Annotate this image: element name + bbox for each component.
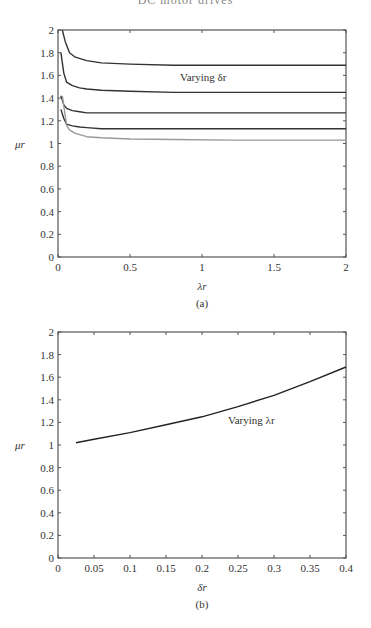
y-tick-label: 1.4 [40,92,54,104]
y-tick-label: 2 [49,326,55,338]
y-tick-label: 0.8 [40,160,54,172]
x-tick-label: 0 [55,562,61,574]
y-tick-label: 1.6 [40,371,54,383]
x-tick-label: 1.5 [267,261,281,273]
chart-b: 00.050.10.150.20.250.30.350.400.20.40.60… [0,302,371,616]
figure-caption: (b) [196,598,209,611]
y-tick-label: 1 [49,439,55,451]
y-tick-label: 0.2 [40,529,54,541]
x-tick-label: 2 [343,261,349,273]
series-line-curve-1 [62,30,346,65]
y-tick-label: 0.6 [40,484,54,496]
x-tick-label: 0.25 [228,562,248,574]
series-line-curve-5 [62,96,346,140]
x-tick-label: 0.05 [84,562,104,574]
series-line-curve-3 [61,96,346,113]
y-tick-label: 0 [49,552,55,564]
y-tick-label: 1.6 [40,69,54,81]
x-axis-label: δr [197,581,207,593]
x-tick-label: 0.2 [195,562,209,574]
x-tick-label: 0.1 [123,562,137,574]
series-line-mu-vs-delta [76,367,346,443]
plot-frame [58,332,346,558]
y-tick-label: 0.2 [40,228,54,240]
y-axis-label: μr [14,439,26,451]
x-tick-label: 0.5 [123,261,137,273]
curve-annotation: Varying λr [228,414,275,426]
y-axis-label: μr [14,138,26,150]
plot-frame [58,30,346,257]
curve-annotation: Varying δr [180,71,227,83]
y-tick-label: 1.8 [40,47,54,59]
y-tick-label: 0.4 [40,507,54,519]
x-tick-label: 0.3 [267,562,281,574]
y-tick-label: 0 [49,251,55,263]
y-tick-label: 1 [49,138,55,150]
y-tick-label: 1.8 [40,349,54,361]
x-tick-label: 0.15 [156,562,176,574]
x-tick-label: 0 [55,261,61,273]
y-tick-label: 0.6 [40,183,54,195]
x-tick-label: 0.35 [300,562,320,574]
y-tick-label: 0.4 [40,206,54,218]
x-tick-label: 1 [199,261,205,273]
y-tick-label: 0.8 [40,462,54,474]
x-axis-label: λr [196,280,207,292]
y-tick-label: 1.2 [40,416,54,428]
chart-a: 00.511.5200.20.40.60.811.21.41.61.82λrμr… [0,0,371,314]
y-tick-label: 2 [49,24,55,36]
x-tick-label: 0.4 [339,562,353,574]
y-tick-label: 1.4 [40,394,54,406]
y-tick-label: 1.2 [40,115,54,127]
